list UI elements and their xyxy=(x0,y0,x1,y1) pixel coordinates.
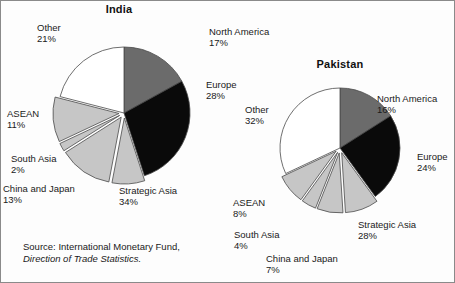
label-value: 24% xyxy=(417,162,448,173)
label-value: 7% xyxy=(266,264,338,275)
pie-slice xyxy=(280,88,340,174)
label-value: 8% xyxy=(233,208,265,219)
label-pakistan-china-japan: China and Japan 7% xyxy=(266,253,338,275)
label-text: North America xyxy=(377,93,437,104)
label-pakistan-other: Other 32% xyxy=(245,104,269,126)
label-text: Europe xyxy=(417,151,448,162)
label-pakistan-strategic-asia: Strategic Asia 28% xyxy=(358,219,416,241)
label-value: 28% xyxy=(358,230,416,241)
label-text: Other xyxy=(245,104,269,115)
label-text: South Asia xyxy=(234,229,279,240)
label-text: Strategic Asia xyxy=(358,219,416,230)
label-value: 32% xyxy=(245,115,269,126)
source-line-2: Direction of Trade Statistics. xyxy=(23,253,180,265)
label-text: China and Japan xyxy=(266,253,338,264)
source-note: Source: International Monetary Fund, Dir… xyxy=(23,241,180,265)
label-text: ASEAN xyxy=(233,197,265,208)
label-value: 4% xyxy=(234,240,279,251)
figure-frame: India North America 17% Europe 28% Strat… xyxy=(0,0,455,283)
label-pakistan-asean: ASEAN 8% xyxy=(233,197,265,219)
label-value: 16% xyxy=(377,104,437,115)
source-line-1: Source: International Monetary Fund, xyxy=(23,241,180,253)
label-pakistan-south-asia: South Asia 4% xyxy=(234,229,279,251)
label-pakistan-europe: Europe 24% xyxy=(417,151,448,173)
label-pakistan-north-america: North America 16% xyxy=(377,93,437,115)
